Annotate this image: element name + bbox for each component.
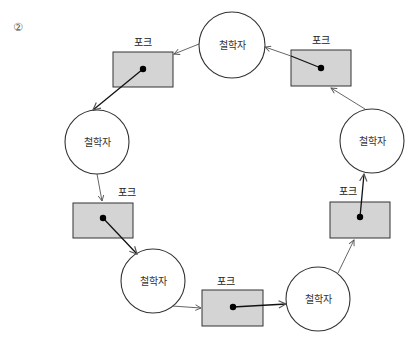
- fork-label: 포크: [118, 187, 136, 198]
- fork-f2: 포크: [291, 35, 351, 86]
- philosopher-label: 철학자: [140, 276, 167, 287]
- fork-label: 포크: [339, 186, 357, 197]
- philosopher-p1: 철학자: [199, 12, 265, 78]
- fork-f4: 포크: [202, 276, 263, 326]
- philosopher-p2: 철학자: [340, 109, 404, 173]
- arrow-p2-to-f2: [331, 88, 365, 109]
- fork-dot: [318, 65, 324, 71]
- fork-dot: [230, 304, 236, 310]
- fork-label: 포크: [312, 35, 330, 46]
- fork-dot: [100, 215, 106, 221]
- philosopher-label: 철학자: [219, 40, 246, 51]
- dining-philosophers-diagram: ② 포크 포크 포크 포크 포크 철학자 철학자 철학자: [0, 0, 413, 346]
- philosopher-label: 철학자: [84, 137, 111, 148]
- arrow-p3-to-f3: [338, 240, 354, 273]
- fork-f1: 포크: [113, 37, 173, 87]
- philosopher-p3: 철학자: [286, 267, 350, 331]
- philosopher-label: 철학자: [359, 136, 386, 147]
- philosopher-label: 철학자: [305, 294, 332, 305]
- fork-label: 포크: [134, 37, 152, 48]
- arrow-p1-to-f1: [174, 44, 199, 54]
- fork-dot: [140, 66, 146, 72]
- philosopher-p5: 철학자: [65, 110, 129, 174]
- figure-number: ②: [13, 21, 23, 34]
- fork-label: 포크: [217, 276, 235, 287]
- philosopher-p4: 철학자: [121, 249, 185, 313]
- fork-dot: [357, 214, 363, 220]
- fork-f5: 포크: [73, 187, 136, 238]
- arrow-p5-to-f5: [97, 174, 102, 201]
- arrow-f2-to-p1: [265, 47, 291, 56]
- arrow-p4-to-f4: [172, 306, 201, 308]
